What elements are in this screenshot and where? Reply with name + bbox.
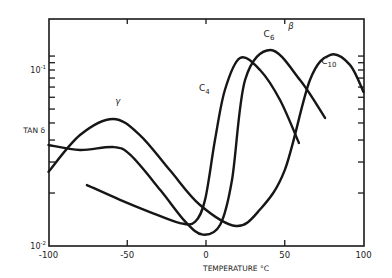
data-curves <box>49 50 364 235</box>
plot-border <box>49 19 364 246</box>
x-tick-label: 0 <box>203 250 208 260</box>
y-axis-title: TAN δ <box>22 126 45 135</box>
curve-c6 <box>49 50 326 235</box>
annotation-c4: C4 <box>199 83 210 96</box>
plot-frame <box>49 19 364 246</box>
annotation-beta: β <box>287 21 294 31</box>
axis-labels: -100-50050100TEMPERATURE °CTAN δ10-110-2 <box>22 64 371 273</box>
annotation-gamma: γ <box>115 96 121 106</box>
x-tick-label: -50 <box>120 250 134 260</box>
x-axis-title: TEMPERATURE °C <box>202 264 269 273</box>
x-tick-label: 50 <box>279 250 290 260</box>
annotation-c6: C6 <box>264 29 275 42</box>
annotation-c10: C10 <box>321 56 336 69</box>
x-tick-label: 100 <box>355 250 371 260</box>
y-tick-label: 10-1 <box>30 64 46 75</box>
axis-ticks <box>49 19 364 246</box>
tan-delta-chart: -100-50050100TEMPERATURE °CTAN δ10-110-2… <box>0 0 392 278</box>
x-tick-label: -100 <box>39 250 58 260</box>
curve-annotations: γβC4C6C10 <box>115 21 336 106</box>
